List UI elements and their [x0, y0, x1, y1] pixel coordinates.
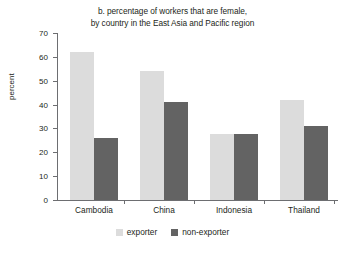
legend-swatch-exporter-icon — [116, 229, 123, 236]
y-tick-50: 50 — [53, 81, 57, 82]
y-tick-30: 30 — [53, 128, 57, 129]
y-tick-label-50: 50 — [39, 76, 48, 85]
x-label-thailand: Thailand — [288, 205, 320, 215]
plot-area: 0 10 20 30 40 50 60 70 Cambodia — [57, 33, 338, 200]
legend-label-non-exporter: non-exporter — [182, 227, 229, 237]
y-tick-label-20: 20 — [39, 148, 48, 157]
y-tick-40: 40 — [53, 105, 57, 106]
y-tick-label-30: 30 — [39, 124, 48, 133]
y-tick-label-60: 60 — [39, 52, 48, 61]
bar-thailand-exporter — [280, 100, 304, 200]
y-tick-0: 0 — [53, 200, 57, 201]
legend-swatch-non-exporter-icon — [171, 229, 178, 236]
y-tick-70: 70 — [53, 33, 57, 34]
y-tick-20: 20 — [53, 152, 57, 153]
x-tick-1 — [124, 200, 125, 204]
x-axis-line — [56, 200, 338, 201]
y-tick-label-10: 10 — [39, 172, 48, 181]
chart-title: b. percentage of workers that are female… — [0, 5, 345, 29]
bar-thailand-non-exporter — [304, 126, 328, 200]
y-tick-label-0: 0 — [44, 196, 48, 205]
chart-legend: exporter non-exporter — [0, 227, 345, 237]
x-tick-4 — [334, 200, 335, 204]
bar-indonesia-non-exporter — [234, 134, 258, 200]
x-label-cambodia: Cambodia — [75, 205, 113, 215]
chart-title-line-2: by country in the East Asia and Pacific … — [0, 17, 345, 29]
y-tick-10: 10 — [53, 176, 57, 177]
y-tick-label-70: 70 — [39, 29, 48, 38]
chart-figure: b. percentage of workers that are female… — [0, 0, 345, 257]
bar-indonesia-exporter — [210, 134, 234, 200]
x-label-indonesia: Indonesia — [216, 205, 252, 215]
bar-cambodia-non-exporter — [94, 138, 118, 200]
x-tick-2 — [194, 200, 195, 204]
bar-cambodia-exporter — [70, 52, 94, 200]
y-axis-line — [57, 33, 58, 200]
y-axis-title: percent — [7, 73, 16, 100]
bar-china-exporter — [140, 71, 164, 200]
chart-title-line-1: b. percentage of workers that are female… — [0, 5, 345, 17]
x-label-china: China — [153, 205, 175, 215]
y-tick-label-40: 40 — [39, 100, 48, 109]
legend-item-non-exporter: non-exporter — [171, 227, 229, 237]
legend-item-exporter: exporter — [116, 227, 157, 237]
y-tick-60: 60 — [53, 57, 57, 58]
legend-label-exporter: exporter — [127, 227, 157, 237]
bar-china-non-exporter — [164, 102, 188, 200]
x-tick-3 — [264, 200, 265, 204]
